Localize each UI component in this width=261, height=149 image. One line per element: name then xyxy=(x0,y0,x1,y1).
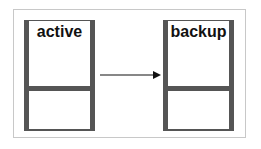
arrow-icon xyxy=(0,0,261,149)
